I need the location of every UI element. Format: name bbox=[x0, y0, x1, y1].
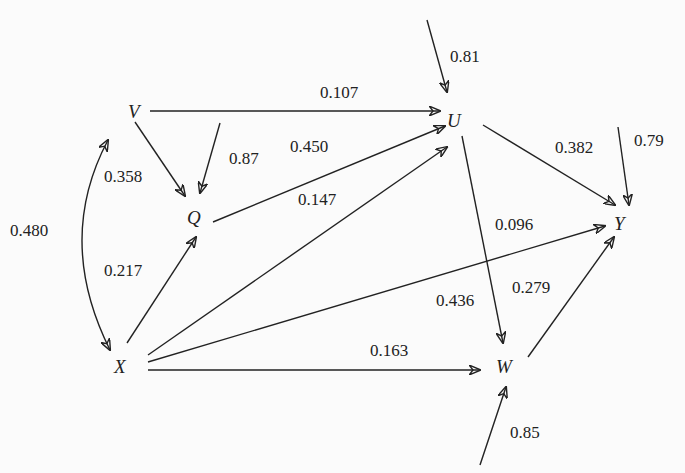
node-x: X bbox=[113, 356, 127, 377]
node-q: Q bbox=[187, 207, 201, 228]
node-v: V bbox=[128, 101, 142, 122]
coef-v-x: 0.480 bbox=[10, 221, 48, 240]
coef-q-u: 0.450 bbox=[290, 137, 328, 156]
node-w: W bbox=[496, 356, 514, 377]
residual-label-w: 0.85 bbox=[510, 423, 540, 442]
coef-x-y: 0.096 bbox=[495, 215, 533, 234]
coef-x-q: 0.217 bbox=[104, 261, 143, 280]
node-y: Y bbox=[614, 213, 627, 234]
node-u: U bbox=[447, 110, 462, 131]
edge-u-w bbox=[462, 136, 503, 343]
coef-u-w: 0.436 bbox=[436, 291, 474, 310]
edge-u-y bbox=[483, 125, 615, 205]
edge-v-q bbox=[135, 122, 185, 196]
residual-label-u: 0.81 bbox=[450, 47, 480, 66]
residual-q bbox=[200, 123, 220, 193]
coef-x-w: 0.163 bbox=[370, 341, 408, 360]
coef-v-q: 0.358 bbox=[104, 167, 142, 186]
edge-x-u bbox=[148, 147, 447, 355]
coef-v-u: 0.107 bbox=[320, 83, 359, 102]
edge-x-q bbox=[127, 237, 196, 343]
residual-y bbox=[618, 127, 629, 205]
residual-label-q: 0.87 bbox=[229, 149, 259, 168]
edge-w-y bbox=[528, 237, 614, 357]
coef-w-y: 0.279 bbox=[512, 278, 550, 297]
diagram-canvas: V Q U Y X W 0.107 0.358 0.450 0.147 0.21… bbox=[0, 0, 685, 473]
residual-label-y: 0.79 bbox=[634, 131, 664, 150]
path-diagram: V Q U Y X W 0.107 0.358 0.450 0.147 0.21… bbox=[0, 0, 685, 473]
residual-u bbox=[427, 20, 447, 92]
coef-x-u: 0.147 bbox=[298, 190, 337, 209]
residual-w bbox=[480, 387, 506, 465]
coef-u-y: 0.382 bbox=[555, 138, 593, 157]
